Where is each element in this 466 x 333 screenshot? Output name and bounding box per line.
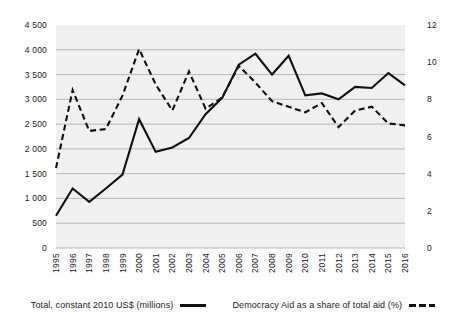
y-axis-left-tick-label: 2 000 (0, 144, 47, 154)
x-axis-tick: 2000 (132, 253, 146, 273)
x-axis-tick-label: 1995 (51, 253, 61, 273)
x-axis-tick-label: 2015 (383, 253, 393, 273)
y-axis-left-tick-label: 1 000 (0, 193, 47, 203)
x-axis-tick: 2006 (232, 253, 246, 273)
x-axis-tick-label: 2001 (151, 253, 161, 273)
y-axis-right-tick-label: 10 (427, 57, 437, 67)
x-axis-tick-label: 1997 (84, 253, 94, 273)
legend-swatch-dashed-icon (409, 304, 435, 307)
y-axis-left-tick-label: 4 000 (0, 45, 47, 55)
x-axis-tick-label: 2004 (201, 253, 211, 273)
x-axis-tick-label: 2013 (350, 253, 360, 273)
x-axis-tick: 2011 (315, 253, 329, 272)
x-axis-tick-label: 2005 (217, 253, 227, 273)
y-axis-left-tick-label: 500 (0, 218, 47, 228)
x-axis-tick: 2004 (199, 253, 213, 273)
x-axis-tick: 2001 (149, 253, 163, 273)
x-axis-tick: 2013 (348, 253, 362, 273)
x-axis-tick: 2014 (365, 253, 379, 273)
x-axis-tick-label: 2007 (250, 253, 260, 273)
x-axis-tick: 2012 (332, 253, 346, 273)
x-axis-tick-label: 2002 (167, 253, 177, 273)
x-axis-tick: 2005 (215, 253, 229, 273)
x-axis-tick-label: 2011 (317, 253, 327, 272)
y-axis-left-tick-label: 1 500 (0, 169, 47, 179)
legend-label-total: Total, constant 2010 US$ (millions) (31, 300, 174, 310)
y-axis-left-tick-label: 3 000 (0, 94, 47, 104)
x-axis-tick: 2015 (381, 253, 395, 273)
chart-legend: Total, constant 2010 US$ (millions) Demo… (0, 300, 466, 310)
y-axis-left-tick-label: 3 500 (0, 70, 47, 80)
x-axis-tick: 2002 (165, 253, 179, 273)
x-axis-tick-label: 2016 (400, 253, 410, 273)
x-axis-tick: 1995 (49, 253, 63, 273)
y-axis-left-tick-label: 2 500 (0, 119, 47, 129)
y-axis-right-tick-label: 4 (427, 169, 432, 179)
x-axis-tick-label: 2014 (367, 253, 377, 273)
x-axis-tick: 2016 (398, 253, 412, 273)
x-axis-tick-label: 2006 (234, 253, 244, 273)
x-axis-tick-label: 1998 (101, 253, 111, 273)
x-axis-tick-label: 2012 (334, 253, 344, 273)
y-axis-left-tick-label: 4 500 (0, 20, 47, 30)
x-axis-tick: 2007 (248, 253, 262, 273)
x-axis-tick: 1999 (116, 253, 130, 273)
legend-item-total: Total, constant 2010 US$ (millions) (31, 300, 207, 310)
x-axis-tick: 2008 (265, 253, 279, 273)
legend-swatch-solid-icon (180, 304, 206, 307)
x-axis-tick: 1997 (82, 253, 96, 273)
x-axis-tick-label: 2009 (284, 253, 294, 273)
plot-background (56, 25, 405, 248)
y-axis-left-tick-label: 0 (0, 243, 47, 253)
x-axis-tick-label: 2010 (300, 253, 310, 273)
y-axis-right-tick-label: 0 (427, 243, 432, 253)
legend-label-share: Democracy Aid as a share of total aid (%… (232, 300, 402, 310)
y-axis-right-tick-label: 12 (427, 20, 437, 30)
legend-item-share: Democracy Aid as a share of total aid (%… (232, 300, 435, 310)
x-axis-tick-label: 2008 (267, 253, 277, 273)
x-axis-tick: 2009 (282, 253, 296, 273)
x-axis-tick-label: 2000 (134, 253, 144, 273)
chart-container: 05001 0001 5002 0002 5003 0003 5004 0004… (0, 0, 466, 333)
x-axis-tick: 2010 (298, 253, 312, 273)
y-axis-right-tick-label: 6 (427, 132, 432, 142)
x-axis-tick: 2003 (182, 253, 196, 273)
x-axis-tick: 1998 (99, 253, 113, 273)
x-axis-tick-label: 2003 (184, 253, 194, 273)
x-axis-tick-label: 1996 (68, 253, 78, 273)
x-axis-tick: 1996 (66, 253, 80, 273)
x-axis-tick-label: 1999 (118, 253, 128, 273)
y-axis-right-tick-label: 2 (427, 206, 432, 216)
y-axis-right-tick-label: 8 (427, 94, 432, 104)
chart-plot-area (0, 0, 466, 333)
